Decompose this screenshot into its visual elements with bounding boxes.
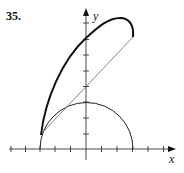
thick-curve: [41, 18, 133, 135]
x-axis: [9, 146, 176, 152]
x-axis-label: x: [168, 152, 175, 166]
y-axis-arrow-icon: [83, 8, 89, 16]
graph: y x: [0, 0, 184, 173]
y-axis-label: y: [92, 9, 99, 23]
semicircle-curve: [40, 103, 133, 149]
